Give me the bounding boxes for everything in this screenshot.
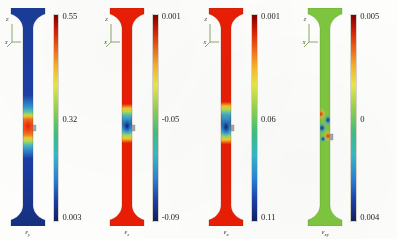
- colorbar-eps-xy: 0.005 0 0.004: [348, 0, 392, 239]
- dogbone-svg-eps-x: [205, 8, 247, 226]
- panel-eps-z: Z X: [99, 0, 198, 239]
- panel-label-eps-xy: εxy: [302, 228, 348, 237]
- specimen-body-eps-x: [205, 8, 247, 226]
- panel-eps-y: Z X: [0, 0, 99, 239]
- colorbar-max-eps-xy: 0.005: [360, 11, 379, 21]
- colorbar-gradient-eps-y: [53, 14, 60, 222]
- specimen-eps-x: Z X: [203, 0, 249, 239]
- dogbone-svg-eps-y: [7, 8, 49, 226]
- scale-marker: [330, 134, 333, 140]
- panel-eps-xy: Z X: [298, 0, 397, 239]
- panel-label-subscript-eps-y: y: [28, 232, 30, 237]
- specimen-eps-z: Z X: [104, 0, 150, 239]
- colorbar-eps-x: 0.001 0.06 0.11: [249, 0, 293, 239]
- scale-marker: [33, 125, 36, 131]
- panel-eps-x: Z X: [199, 0, 298, 239]
- colorbar-min-eps-xy: 0.004: [360, 212, 379, 222]
- colorbar-gradient-eps-xy: [350, 14, 357, 222]
- colorbar-ticks-eps-z: 0.001 -0.05 -0.09: [162, 14, 194, 222]
- colorbar-eps-z: 0.001 -0.05 -0.09: [150, 0, 194, 239]
- colorbar-min-eps-y: 0.003: [62, 212, 81, 222]
- colorbar-mid-eps-xy: 0: [360, 114, 364, 124]
- colorbar-min-eps-z: -0.09: [162, 212, 180, 222]
- specimen-body-eps-z: [106, 8, 148, 226]
- panel-label-eps-z: εz: [104, 228, 150, 237]
- colorbar-eps-y: 0.55 0.32 0.003: [51, 0, 95, 239]
- colorbar-ticks-eps-x: 0.001 0.06 0.11: [261, 14, 293, 222]
- panel-label-eps-x: εx: [203, 228, 249, 237]
- strain-field-figure: Z X: [0, 0, 397, 239]
- scale-marker: [132, 125, 135, 131]
- colorbar-gradient-eps-x: [251, 14, 258, 222]
- colorbar-ticks-eps-xy: 0.005 0 0.004: [360, 14, 392, 222]
- colorbar-min-eps-x: 0.11: [261, 212, 276, 222]
- colorbar-max-eps-y: 0.55: [62, 11, 77, 21]
- panel-label-subscript-eps-z: z: [127, 232, 129, 237]
- dogbone-svg-eps-z: [106, 8, 148, 226]
- colorbar-gradient-eps-z: [152, 14, 159, 222]
- specimen-eps-y: Z X: [5, 0, 51, 239]
- specimen-body-eps-y: [7, 8, 49, 226]
- specimen-body-eps-xy: [304, 8, 346, 226]
- colorbar-max-eps-z: 0.001: [162, 11, 181, 21]
- specimen-eps-xy: Z X: [302, 0, 348, 239]
- colorbar-mid-eps-x: 0.06: [261, 114, 276, 124]
- colorbar-mid-eps-z: -0.05: [162, 114, 180, 124]
- panel-label-subscript-eps-x: x: [226, 232, 228, 237]
- colorbar-max-eps-x: 0.001: [261, 11, 280, 21]
- scale-marker: [231, 125, 234, 131]
- panel-label-subscript-eps-xy: xy: [325, 232, 329, 237]
- dogbone-svg-eps-xy: [304, 8, 346, 226]
- colorbar-mid-eps-y: 0.32: [62, 114, 77, 124]
- colorbar-ticks-eps-y: 0.55 0.32 0.003: [62, 14, 94, 222]
- panel-label-eps-y: εy: [5, 228, 51, 237]
